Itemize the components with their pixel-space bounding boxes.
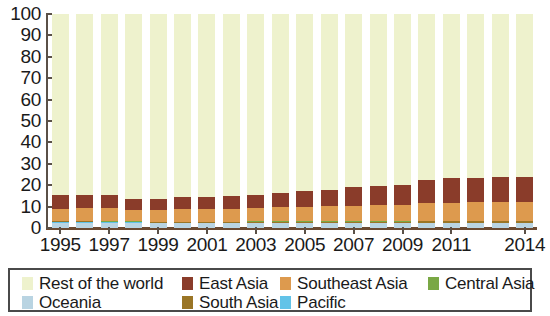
y-axis-tick-mark: [46, 141, 52, 143]
y-axis-tick-labels: 1009080706050403020100: [0, 0, 44, 262]
segment-southeast-asia: [198, 209, 215, 222]
bar-2003: [247, 14, 264, 228]
segment-east-asia: [101, 195, 118, 208]
segment-east-asia: [370, 186, 387, 205]
legend-swatch-icon: [428, 277, 439, 290]
y-axis-tick-mark: [46, 227, 52, 229]
x-axis-tick-label: 2003: [228, 234, 284, 256]
y-axis-tick-label: 60: [0, 90, 41, 109]
segment-rest-of-the-world: [52, 14, 69, 195]
bar-2005: [296, 14, 313, 228]
bar-1995: [52, 14, 69, 228]
segment-southeast-asia: [247, 208, 264, 221]
segment-rest-of-the-world: [345, 14, 362, 187]
y-axis-tick-label: 90: [0, 25, 41, 44]
y-axis-tick-label: 50: [0, 111, 41, 130]
legend-swatch-icon: [22, 277, 33, 290]
x-axis-tick-mark: [59, 227, 61, 234]
y-axis-tick-mark: [46, 34, 52, 36]
segment-rest-of-the-world: [101, 14, 118, 195]
bar-1998: [125, 14, 142, 228]
segment-southeast-asia: [345, 206, 362, 222]
legend-item-southeast-asia[interactable]: Southeast Asia: [280, 274, 408, 293]
segment-oceania: [174, 223, 191, 228]
x-axis-tick-mark: [524, 227, 526, 234]
x-axis-tick-label: 2001: [179, 234, 235, 256]
segment-oceania: [125, 223, 142, 228]
y-axis-tick-mark: [46, 184, 52, 186]
legend-swatch-icon: [182, 296, 193, 309]
legend-label: Rest of the world: [39, 274, 163, 293]
legend-label: Central Asia: [445, 274, 534, 293]
segment-east-asia: [150, 199, 167, 210]
segment-southeast-asia: [443, 203, 460, 221]
legend-item-pacific[interactable]: Pacific: [280, 293, 346, 312]
legend-label: Southeast Asia: [297, 274, 408, 293]
segment-east-asia: [174, 197, 191, 209]
bar-series-container: [48, 14, 537, 228]
segment-rest-of-the-world: [272, 14, 289, 193]
segment-southeast-asia: [223, 209, 240, 222]
x-axis-tick-label: 1997: [81, 234, 137, 256]
legend-swatch-icon: [280, 277, 291, 290]
legend-swatch-icon: [280, 296, 291, 309]
x-axis-tick-labels: 1995199719992001200320052007200920112014: [0, 234, 539, 262]
segment-rest-of-the-world: [296, 14, 313, 191]
segment-southeast-asia: [394, 205, 411, 221]
y-axis-tick-mark: [46, 99, 52, 101]
segment-oceania: [321, 223, 338, 228]
y-axis-tick-label: 40: [0, 132, 41, 151]
bar-2001: [198, 14, 215, 228]
segment-oceania: [492, 223, 509, 228]
y-axis-tick-label: 30: [0, 154, 41, 173]
legend-label: Pacific: [297, 293, 346, 312]
legend-item-central-asia[interactable]: Central Asia: [428, 274, 534, 293]
legend-label: Oceania: [39, 293, 101, 312]
bar-1996: [76, 14, 93, 228]
bar-2004: [272, 14, 289, 228]
bar-2007: [345, 14, 362, 228]
segment-rest-of-the-world: [174, 14, 191, 197]
segment-oceania: [223, 223, 240, 228]
bar-2009: [394, 14, 411, 228]
segment-east-asia: [443, 178, 460, 202]
segment-rest-of-the-world: [370, 14, 387, 186]
x-axis-tick-label: 1995: [32, 234, 88, 256]
segment-oceania: [467, 223, 484, 228]
segment-east-asia: [492, 177, 509, 202]
segment-southeast-asia: [492, 202, 509, 220]
segment-east-asia: [247, 195, 264, 208]
legend-item-south-asia[interactable]: South Asia: [182, 293, 278, 312]
segment-rest-of-the-world: [223, 14, 240, 196]
legend-item-rest-of-the-world[interactable]: Rest of the world: [22, 274, 163, 293]
y-axis-tick-label: 20: [0, 175, 41, 194]
y-axis-tick-mark: [46, 206, 52, 208]
segment-rest-of-the-world: [467, 14, 484, 178]
segment-east-asia: [198, 197, 215, 209]
x-axis-tick-mark: [255, 227, 257, 234]
x-axis-tick-label: 2007: [326, 234, 382, 256]
bar-2011: [443, 14, 460, 228]
segment-east-asia: [394, 185, 411, 205]
bar-2006: [321, 14, 338, 228]
x-axis-tick-label: 2005: [277, 234, 333, 256]
segment-rest-of-the-world: [198, 14, 215, 197]
segment-rest-of-the-world: [394, 14, 411, 185]
segment-rest-of-the-world: [321, 14, 338, 189]
x-axis-tick-label: 2011: [423, 234, 479, 256]
x-axis-tick-mark: [157, 227, 159, 234]
segment-rest-of-the-world: [492, 14, 509, 177]
segment-southeast-asia: [52, 209, 69, 221]
x-axis-tick-mark: [353, 227, 355, 234]
legend-item-east-asia[interactable]: East Asia: [182, 274, 268, 293]
y-axis-tick-label: 80: [0, 47, 41, 66]
segment-east-asia: [223, 196, 240, 208]
segment-southeast-asia: [296, 207, 313, 222]
bar-1999: [150, 14, 167, 228]
x-axis-tick-label: 1999: [130, 234, 186, 256]
legend-item-oceania[interactable]: Oceania: [22, 293, 101, 312]
segment-southeast-asia: [174, 209, 191, 221]
chart-legend: Rest of the worldEast AsiaSoutheast Asia…: [8, 268, 532, 312]
segment-east-asia: [345, 187, 362, 205]
segment-rest-of-the-world: [418, 14, 435, 180]
